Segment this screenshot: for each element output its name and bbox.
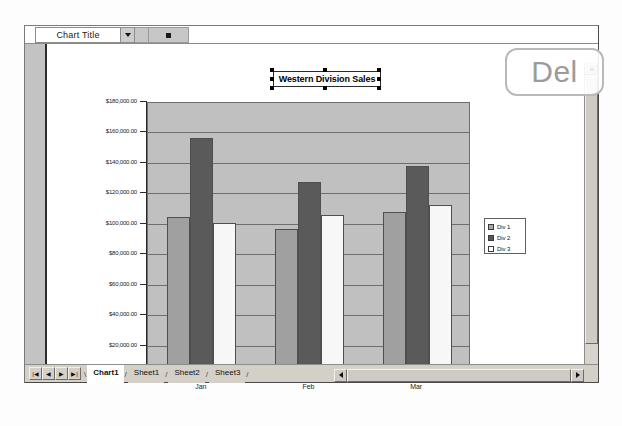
legend-item[interactable]: Div 2 <box>488 233 525 243</box>
bar[interactable] <box>383 212 406 375</box>
y-axis-tick <box>140 253 146 254</box>
bar[interactable] <box>213 223 236 375</box>
y-axis-tick-label: $100,000.00 <box>106 220 137 227</box>
scroll-left-icon[interactable] <box>334 369 347 382</box>
legend-item[interactable]: Div 1 <box>488 222 525 232</box>
chart-title-box[interactable]: Western Division Sales <box>273 71 381 87</box>
bar[interactable] <box>190 138 213 375</box>
plot-container: $-$20,000.00$40,000.00$60,000.00$80,000.… <box>47 46 574 362</box>
bar[interactable] <box>321 215 344 375</box>
sheet-nav-buttons: |◀ ◀ ▶ ▶| <box>29 367 81 380</box>
legend-swatch <box>488 246 494 252</box>
sheet-tab-sheet2[interactable]: Sheet2 <box>168 365 204 383</box>
format-object-button[interactable] <box>149 27 189 43</box>
y-axis-tick-label: $60,000.00 <box>109 281 137 288</box>
formula-toolbar: Chart Title <box>25 26 598 44</box>
chart-legend[interactable]: Div 1Div 2Div 3 <box>484 218 526 254</box>
legend-swatch <box>488 224 494 230</box>
sheet-tab-bar: |◀ ◀ ▶ ▶| \Chart1/Sheet1/Sheet2/Sheet3/ <box>25 364 598 382</box>
sheet-tab-sheet3[interactable]: Sheet3 <box>209 365 245 383</box>
y-axis-tick <box>140 162 146 163</box>
bar-group <box>383 103 452 375</box>
selection-handle[interactable] <box>377 68 381 72</box>
horizontal-scrollbar[interactable] <box>334 368 584 382</box>
y-axis-tick-label: $80,000.00 <box>109 250 137 257</box>
selection-handle[interactable] <box>270 77 274 81</box>
y-axis-line <box>146 101 147 377</box>
chart-sheet: $-$20,000.00$40,000.00$60,000.00$80,000.… <box>47 44 575 364</box>
vertical-scroll-thumb[interactable] <box>585 76 598 344</box>
vertical-scrollbar[interactable] <box>584 62 598 382</box>
bar-series-container <box>148 103 469 375</box>
chart-title-text: Western Division Sales <box>279 74 376 84</box>
sheet-tab-chart1[interactable]: Chart1 <box>87 365 123 383</box>
y-axis-tick <box>140 223 146 224</box>
tab-separator: / <box>245 367 249 383</box>
sheet-tabs: \Chart1/Sheet1/Sheet2/Sheet3/ <box>83 365 250 383</box>
next-sheet-icon[interactable]: ▶ <box>55 367 68 380</box>
last-sheet-icon[interactable]: ▶| <box>68 367 81 380</box>
name-box-value: Chart Title <box>36 28 120 42</box>
y-axis-tick <box>140 131 146 132</box>
del-key-overlay: Del <box>505 48 604 96</box>
y-axis-labels: $-$20,000.00$40,000.00$60,000.00$80,000.… <box>47 46 137 362</box>
square-icon <box>166 33 171 38</box>
y-axis-tick <box>140 192 146 193</box>
chart-title-selection[interactable]: Western Division Sales <box>273 71 381 87</box>
first-sheet-icon[interactable]: |◀ <box>29 367 42 380</box>
y-axis-tick-label: $140,000.00 <box>106 159 137 166</box>
legend-item[interactable]: Div 3 <box>488 244 525 254</box>
x-axis-tick-label: Feb <box>279 383 339 390</box>
bar[interactable] <box>167 217 190 375</box>
legend-label: Div 2 <box>497 235 510 241</box>
selection-handle[interactable] <box>377 86 381 90</box>
x-axis-tick-label: Mar <box>386 383 446 390</box>
horizontal-scroll-thumb[interactable] <box>347 369 571 382</box>
y-axis-tick <box>140 345 146 346</box>
name-box[interactable]: Chart Title <box>35 27 135 43</box>
y-axis-tick-label: $120,000.00 <box>106 189 137 196</box>
del-key-label: Del <box>531 57 578 87</box>
selection-handle[interactable] <box>270 86 274 90</box>
y-axis-tick <box>140 101 146 102</box>
toolbar-spacer <box>135 27 149 43</box>
y-axis-tick-label: $40,000.00 <box>109 311 137 318</box>
legend-label: Div 3 <box>497 246 510 252</box>
selection-handle[interactable] <box>323 86 327 90</box>
bar[interactable] <box>429 205 452 375</box>
chart-area[interactable]: $-$20,000.00$40,000.00$60,000.00$80,000.… <box>47 46 574 362</box>
legend-label: Div 1 <box>497 224 510 230</box>
y-axis-tick-label: $20,000.00 <box>109 342 137 349</box>
legend-swatch <box>488 235 494 241</box>
selection-handle[interactable] <box>323 68 327 72</box>
formula-input[interactable] <box>189 27 598 43</box>
bar[interactable] <box>406 166 429 375</box>
bar-group <box>275 103 344 375</box>
bar[interactable] <box>275 229 298 375</box>
scroll-right-icon[interactable] <box>571 369 584 382</box>
y-axis-tick-label: $180,000.00 <box>106 98 137 105</box>
bar-group <box>167 103 236 375</box>
chevron-down-icon[interactable] <box>120 28 134 42</box>
plot-area[interactable] <box>147 102 470 376</box>
bar[interactable] <box>298 182 321 375</box>
prev-sheet-icon[interactable]: ◀ <box>42 367 55 380</box>
selection-handle[interactable] <box>377 77 381 81</box>
sheet-tab-sheet1[interactable]: Sheet1 <box>128 365 164 383</box>
selection-handle[interactable] <box>270 68 274 72</box>
y-axis-tick-label: $160,000.00 <box>106 128 137 135</box>
screenshot-root: Chart Title <box>0 0 622 426</box>
y-axis-tick <box>140 314 146 315</box>
row-header-gutter <box>25 44 46 364</box>
x-axis-tick-label: Jan <box>171 383 231 390</box>
y-axis-tick <box>140 284 146 285</box>
